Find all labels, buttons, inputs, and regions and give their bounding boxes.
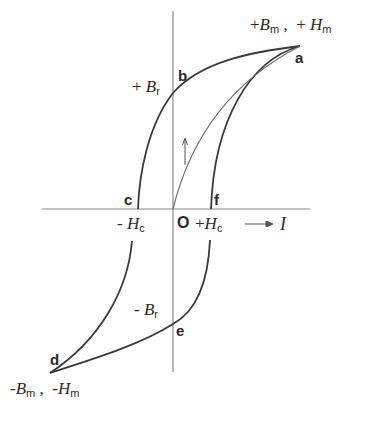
symbol-B: B — [16, 379, 26, 398]
point-b-label: b — [178, 68, 187, 83]
lower-branch-top — [211, 46, 300, 209]
point-a-label: a — [295, 50, 303, 65]
upper-branch-bottom — [50, 241, 132, 373]
point-d-label: d — [50, 352, 59, 367]
sign: + — [132, 77, 146, 96]
sign: + — [250, 15, 260, 34]
point-e-label: e — [176, 323, 184, 338]
symbol-H: H — [310, 15, 322, 34]
subscript: m — [26, 387, 35, 399]
point-f-label: f — [214, 192, 219, 207]
sign: - — [134, 300, 144, 319]
separator: , — [279, 15, 296, 34]
symbol-B: B — [260, 15, 270, 34]
label-neg-max: -Bm , -Hm — [10, 380, 79, 399]
label-pos-Br: + Br — [132, 78, 160, 97]
sign: + — [296, 15, 310, 34]
label-neg-Br: - Br — [134, 301, 158, 320]
symbol-H: H — [127, 214, 139, 233]
subscript: m — [322, 23, 331, 35]
separator: , — [35, 379, 52, 398]
subscript: c — [217, 222, 223, 234]
upper-branch-top — [138, 46, 300, 209]
sign: - — [117, 214, 127, 233]
label-neg-Hc: - Hc — [117, 215, 145, 234]
subscript: m — [270, 23, 279, 35]
subscript: r — [156, 85, 160, 97]
subscript: r — [154, 308, 158, 320]
current-label: I — [280, 215, 286, 233]
current-arrow-head — [266, 221, 273, 227]
initial-magnetization-curve — [173, 46, 300, 209]
origin-label: O — [177, 215, 189, 231]
subscript: m — [70, 387, 79, 399]
symbol-H: H — [205, 214, 217, 233]
sign: + — [195, 214, 205, 233]
label-pos-Hc: +Hc — [195, 215, 222, 234]
symbol-H: H — [58, 379, 70, 398]
symbol-B: B — [146, 77, 156, 96]
subscript: c — [139, 222, 145, 234]
label-pos-max: +Bm , + Hm — [250, 16, 331, 35]
point-c-label: c — [124, 192, 132, 207]
symbol-B: B — [144, 300, 154, 319]
